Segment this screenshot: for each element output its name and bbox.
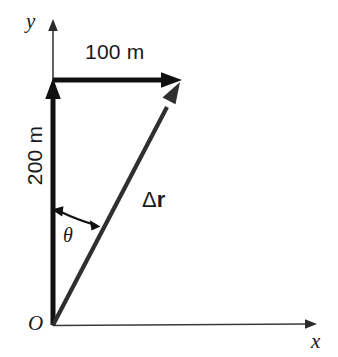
vertical-component-label: 200 m: [24, 116, 45, 196]
horizontal-component-vector: [53, 72, 182, 88]
x-axis-label: x: [311, 331, 320, 352]
y-axis-label: y: [26, 11, 35, 32]
resultant-symbol: r: [157, 187, 166, 212]
origin-label: O: [28, 313, 43, 334]
resultant-vector-label: Δr: [142, 189, 166, 211]
x-axis: [53, 319, 317, 329]
angle-label: θ: [63, 225, 73, 245]
horizontal-component-label: 100 m: [85, 41, 144, 62]
vector-diagram-canvas: [0, 0, 338, 357]
vector-diagram-figure: y x O 100 m 200 m Δr θ: [0, 0, 338, 357]
delta-symbol: Δ: [142, 187, 157, 212]
angle-arc-theta: [52, 206, 101, 230]
vertical-component-vector: [45, 78, 61, 325]
